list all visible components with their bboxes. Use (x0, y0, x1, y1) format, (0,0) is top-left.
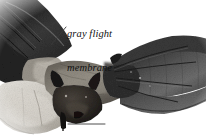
callout-label-gray-flight-membrane: gray flight membrane (67, 6, 112, 95)
bat-anatomy-figure: gray flight membrane pale underside (0, 0, 206, 136)
callout-label-gray-flight-membrane-line2: membrane (67, 62, 112, 73)
callout-label-gray-flight-membrane-line1: gray flight (67, 28, 112, 39)
callout-label-pale-underside: pale underside (109, 114, 173, 136)
